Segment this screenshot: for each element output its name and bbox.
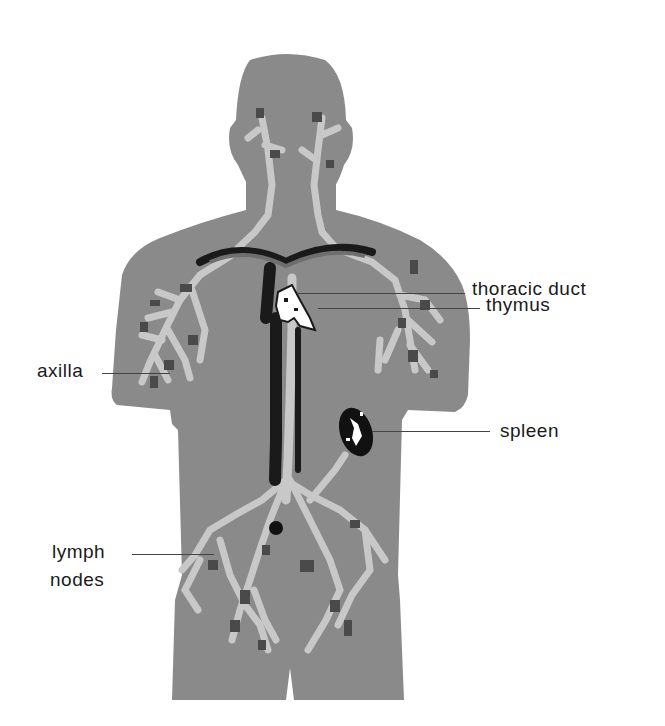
lymphatic-system-diagram: thoracic duct thymus axilla spleen lymph… [0, 0, 665, 726]
label-thymus: thymus [486, 294, 550, 316]
spleen-leader [372, 431, 490, 432]
pelvic-lymph-node [269, 521, 283, 535]
label-lymph-nodes-line1: lymph [52, 541, 105, 563]
label-lymph-nodes-line2: nodes [50, 569, 104, 591]
label-axilla: axilla [37, 360, 83, 382]
thymus-leader [318, 308, 480, 309]
body-illustration [0, 0, 665, 726]
thoracic-duct-leader [298, 293, 465, 294]
label-spleen: spleen [500, 420, 559, 442]
lymph-nodes-leader [132, 554, 214, 555]
axilla-leader [102, 373, 170, 374]
